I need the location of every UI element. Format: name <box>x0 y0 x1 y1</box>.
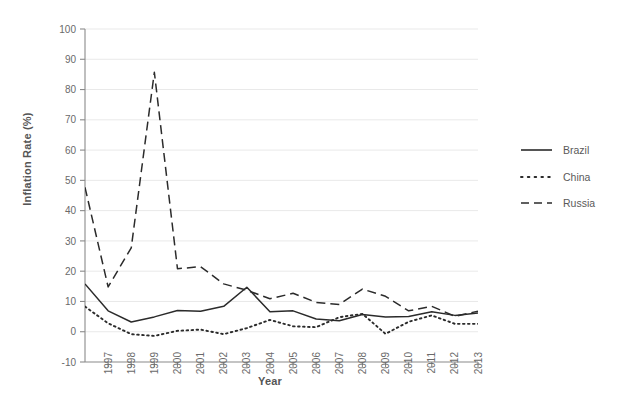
y-tick-label: 100 <box>59 24 76 35</box>
x-tick-label: 2010 <box>403 352 414 375</box>
x-tick-label: 1999 <box>149 352 160 375</box>
y-tick-label: 0 <box>70 326 76 337</box>
line-chart: -100102030405060708090100199719981999200… <box>0 0 627 404</box>
x-tick-label: 1998 <box>126 352 137 375</box>
chart-legend: BrazilChinaRussia <box>521 144 595 209</box>
y-tick-label: 80 <box>65 84 77 95</box>
x-tick-label: 2009 <box>380 352 391 375</box>
series-line-brazil <box>85 284 478 322</box>
series-group <box>85 72 478 336</box>
x-tick-label: 2011 <box>426 352 437 374</box>
y-axis: -100102030405060708090100 <box>59 24 85 368</box>
y-axis-title-wrap: Inflation Rate (%) <box>17 89 35 229</box>
legend-label-russia: Russia <box>563 197 595 209</box>
series-line-russia <box>85 72 478 316</box>
x-axis-title-wrap: Year <box>180 371 360 389</box>
x-tick-label: 1997 <box>103 352 114 375</box>
y-tick-label: 10 <box>65 296 77 307</box>
y-tick-label: 30 <box>65 236 77 247</box>
y-tick-label: 90 <box>65 54 77 65</box>
y-tick-label: -10 <box>62 357 77 368</box>
chart-figure: -100102030405060708090100199719981999200… <box>0 0 627 404</box>
x-axis-title: Year <box>258 375 282 387</box>
grid-lines <box>85 29 478 332</box>
y-axis-title: Inflation Rate (%) <box>21 112 33 205</box>
legend-label-brazil: Brazil <box>563 144 589 156</box>
y-tick-label: 50 <box>65 175 77 186</box>
y-tick-label: 40 <box>65 205 77 216</box>
y-tick-label: 20 <box>65 266 77 277</box>
y-tick-label: 70 <box>65 114 77 125</box>
x-tick-label: 2013 <box>473 352 484 375</box>
legend-label-china: China <box>563 171 591 183</box>
y-tick-label: 60 <box>65 145 77 156</box>
x-tick-label: 2012 <box>449 352 460 375</box>
